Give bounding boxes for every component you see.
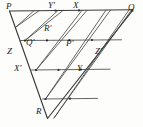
label-point-r-prime: R' <box>44 24 51 33</box>
label-point-y-prime: Y' <box>48 1 55 10</box>
label-point-y: Y <box>77 64 82 73</box>
label-point-q: Q <box>128 3 135 12</box>
grid-row-2 <box>32 69 111 70</box>
node-point <box>69 98 71 100</box>
side-QR <box>48 10 134 119</box>
label-point-p-prime: P' <box>66 39 73 48</box>
label-point-z-prime: Z' <box>95 47 102 56</box>
node-point <box>35 69 37 71</box>
node-point <box>44 98 46 100</box>
grid-lines <box>16 10 132 118</box>
label-point-q-prime: Q' <box>26 38 34 47</box>
label-point-z: Z <box>7 47 12 56</box>
grid-diag-left-1 <box>16 11 34 27</box>
side-PQ <box>10 10 134 11</box>
label-point-x: X <box>73 1 79 10</box>
node-point <box>57 69 59 71</box>
node-point <box>91 39 93 41</box>
geometry-figure: P Y' X Q R' Z Q' P' Z' X' Y R <box>0 0 143 127</box>
node-point <box>46 39 48 41</box>
label-point-r: R <box>36 107 42 116</box>
label-point-x-prime: X' <box>14 64 21 73</box>
lattice-nodes <box>24 9 93 100</box>
grid-diag-right-1 <box>16 11 39 27</box>
geometry-canvas <box>0 0 143 127</box>
label-point-p: P <box>6 2 12 11</box>
